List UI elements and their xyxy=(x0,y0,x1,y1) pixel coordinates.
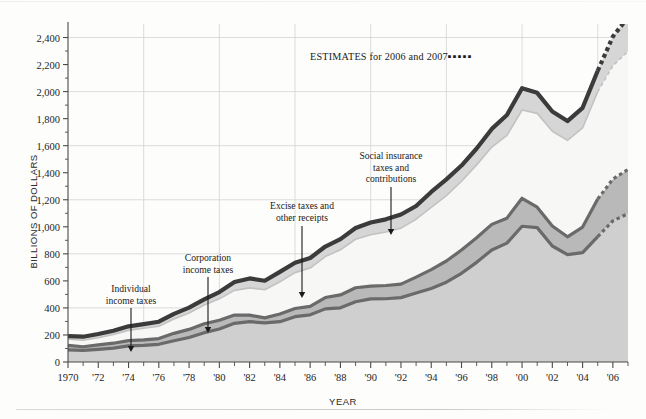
y-tick-label: 1,600 xyxy=(16,140,60,151)
footer-rule xyxy=(16,409,618,410)
y-tick-label: 2,000 xyxy=(16,86,60,97)
y-tick-label: 600 xyxy=(16,275,60,286)
annotation-excise-line1: Excise taxes and xyxy=(270,200,334,212)
estimates-note-dots: ▪▪▪▪▪ xyxy=(448,50,473,62)
annotation-individual-line1: Individual xyxy=(106,283,156,295)
y-tick-label: 1,400 xyxy=(16,167,60,178)
annotation-corporation-income-taxes: Corporation income taxes xyxy=(183,252,233,275)
annotation-individual-line2: income taxes xyxy=(106,295,156,307)
estimates-note: ESTIMATES for 2006 and 2007▪▪▪▪▪ xyxy=(310,50,473,62)
x-tick-label: '06 xyxy=(593,372,633,383)
annotation-excise-taxes: Excise taxes and other receipts xyxy=(270,200,334,223)
y-tick-label: 1,000 xyxy=(16,221,60,232)
chart-page: BILLIONS OF DOLLARS YEAR 02004006008001,… xyxy=(0,0,646,419)
y-tick-label: 400 xyxy=(16,302,60,313)
y-tick-label: 200 xyxy=(16,329,60,340)
annotation-individual-income-taxes: Individual income taxes xyxy=(106,283,156,306)
annotation-corporation-line2: income taxes xyxy=(183,264,233,276)
annotation-social-insurance: Social insurance taxes and contributions xyxy=(359,150,422,185)
annotation-excise-line2: other receipts xyxy=(270,212,334,224)
annotation-social-line2: taxes and xyxy=(359,162,422,174)
y-tick-label: 1,800 xyxy=(16,113,60,124)
y-tick-label: 800 xyxy=(16,248,60,259)
estimates-note-text: ESTIMATES for 2006 and 2007 xyxy=(310,51,448,62)
y-tick-label: 2,200 xyxy=(16,59,60,70)
y-tick-label: 0 xyxy=(16,357,60,368)
x-axis-title: YEAR xyxy=(0,396,646,407)
annotation-social-line1: Social insurance xyxy=(359,150,422,162)
y-tick-label: 2,400 xyxy=(16,32,60,43)
stacked-areas xyxy=(68,17,628,362)
annotation-social-line3: contributions xyxy=(359,173,422,185)
annotation-corporation-line1: Corporation xyxy=(183,252,233,264)
y-tick-label: 1,200 xyxy=(16,194,60,205)
